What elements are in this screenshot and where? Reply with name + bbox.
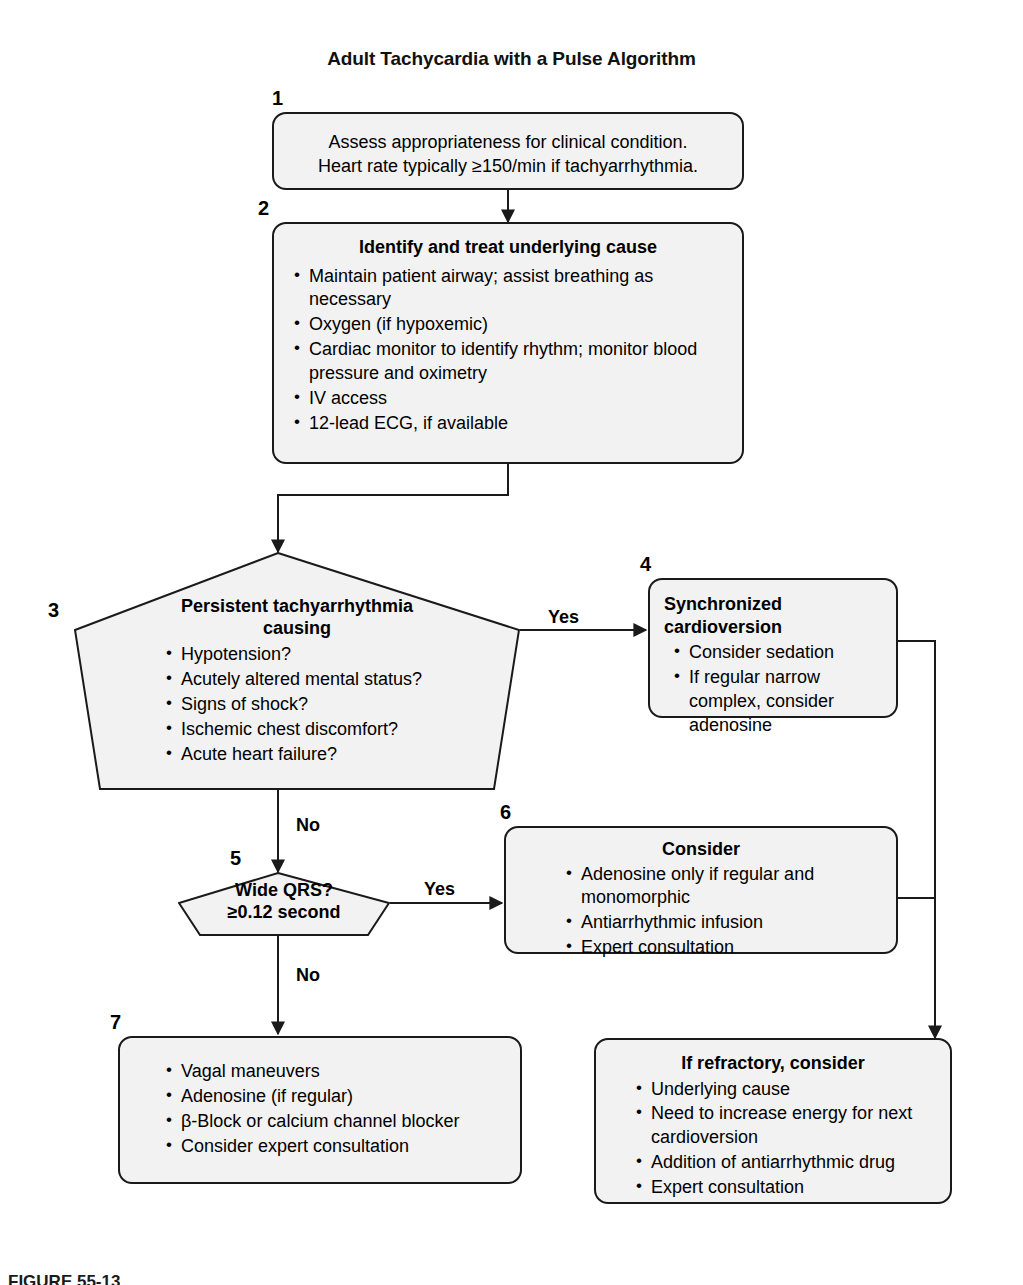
step-number-4: 4 (640, 554, 651, 574)
step-3-bullets: Hypotension? Acutely altered mental stat… (166, 643, 466, 767)
list-item: If regular narrow complex, consider aden… (674, 666, 882, 738)
step-number-2: 2 (258, 198, 269, 218)
figure-caption: FIGURE 55-13 (8, 1272, 120, 1285)
step-5-line-2: ≥0.12 second (178, 902, 390, 924)
algorithm-figure: Adult Tachycardia with a Pulse Algorithm (0, 0, 1023, 1285)
edge-label-no-5-to-7: No (296, 966, 320, 984)
step-6-bullets: Adenosine only if regular and monomorphi… (566, 863, 880, 961)
list-item: Antiarrhythmic infusion (566, 911, 880, 935)
step-1-box: Assess appropriateness for clinical cond… (272, 112, 744, 190)
list-item: IV access (294, 387, 722, 411)
edge-label-no-3-to-5: No (296, 816, 320, 834)
step-5-pentagon: Wide QRS? ≥0.12 second (178, 872, 390, 936)
edge-2-to-3 (278, 464, 508, 552)
step-5-line-1: Wide QRS? (178, 880, 390, 902)
list-item: β-Block or calcium channel blocker (166, 1110, 504, 1134)
list-item: Vagal maneuvers (166, 1060, 504, 1084)
step-1-line-1: Assess appropriateness for clinical cond… (292, 131, 724, 155)
list-item: Underlying cause (636, 1078, 934, 1102)
list-item: Addition of antiarrhythmic drug (636, 1151, 934, 1175)
list-item: Need to increase energy for next cardiov… (636, 1102, 934, 1150)
step-7-bullets: Vagal maneuvers Adenosine (if regular) β… (166, 1060, 504, 1159)
step-number-6: 6 (500, 802, 511, 822)
list-item: Ischemic chest discomfort? (166, 718, 466, 742)
edge-label-yes-3-to-4: Yes (548, 608, 579, 626)
list-item: Oxygen (if hypoxemic) (294, 313, 722, 337)
page-title: Adult Tachycardia with a Pulse Algorithm (0, 48, 1023, 70)
list-item: Consider expert consultation (166, 1135, 504, 1159)
list-item: Adenosine (if regular) (166, 1085, 504, 1109)
step-number-5: 5 (230, 848, 241, 868)
list-item: Consider sedation (674, 641, 882, 665)
list-item: Expert consultation (636, 1176, 934, 1200)
step-4-title: Synchronized cardioversion (664, 593, 882, 638)
edge-4-to-refractory (898, 641, 935, 1038)
list-item: Acute heart failure? (166, 743, 466, 767)
step-6-title: Consider (522, 838, 880, 861)
step-1-line-2: Heart rate typically ≥150/min if tachyar… (292, 155, 724, 179)
step-7-box: Vagal maneuvers Adenosine (if regular) β… (118, 1036, 522, 1184)
list-item: 12-lead ECG, if available (294, 412, 722, 436)
list-item: Signs of shock? (166, 693, 466, 717)
step-6-box: Consider Adenosine only if regular and m… (504, 826, 898, 954)
step-3-title-line-2: causing (74, 618, 520, 640)
list-item: Hypotension? (166, 643, 466, 667)
list-item: Acutely altered mental status? (166, 668, 466, 692)
edge-label-yes-5-to-6: Yes (424, 880, 455, 898)
list-item: Expert consultation (566, 936, 880, 960)
step-4-bullets: Consider sedation If regular narrow comp… (674, 641, 882, 738)
refractory-box: If refractory, consider Underlying cause… (594, 1038, 952, 1204)
list-item: Cardiac monitor to identify rhythm; moni… (294, 338, 722, 386)
list-item: Maintain patient airway; assist breathin… (294, 265, 722, 313)
step-2-box: Identify and treat underlying cause Main… (272, 222, 744, 464)
step-2-title: Identify and treat underlying cause (294, 236, 722, 259)
list-item: Adenosine only if regular and monomorphi… (566, 863, 880, 911)
step-number-7: 7 (110, 1012, 121, 1032)
refractory-bullets: Underlying cause Need to increase energy… (636, 1078, 934, 1201)
step-3-title-line-1: Persistent tachyarrhythmia (74, 596, 520, 618)
refractory-title: If refractory, consider (612, 1052, 934, 1075)
step-3-pentagon: Persistent tachyarrhythmia causing Hypot… (74, 552, 520, 790)
step-number-3: 3 (48, 600, 59, 620)
step-4-box: Synchronized cardioversion Consider seda… (648, 578, 898, 718)
step-number-1: 1 (272, 88, 283, 108)
step-2-bullets: Maintain patient airway; assist breathin… (294, 265, 722, 437)
